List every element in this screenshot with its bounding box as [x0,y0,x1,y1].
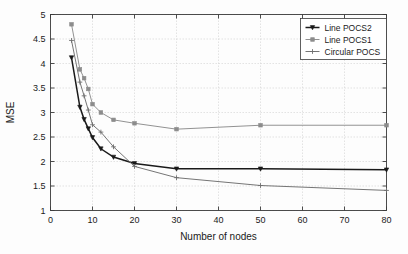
data-point-marker [311,38,315,42]
y-tick-label: 5 [40,10,45,20]
x-tick-label: 0 [48,215,53,225]
x-tick-label: 80 [381,215,391,225]
y-tick-label: 3.5 [33,83,46,93]
y-tick-label: 4.5 [33,34,46,44]
x-tick-label: 40 [213,215,223,225]
line-chart: 0102030405060708011.522.533.544.55Number… [0,0,408,254]
y-axis-title: MSE [5,101,16,123]
series-line [72,40,387,190]
data-point-marker [133,121,137,125]
data-point-marker [259,123,263,127]
y-tick-label: 1.5 [33,181,46,191]
x-tick-label: 50 [255,215,265,225]
legend-label-2: Line POCS1 [325,35,373,45]
x-tick-label: 10 [87,215,97,225]
legend-label-3: Circular POCS [325,47,381,57]
data-point-marker [87,87,91,91]
x-axis-title: Number of nodes [180,231,257,242]
x-tick-label: 70 [339,215,349,225]
data-point-marker [175,127,179,131]
y-tick-label: 2 [40,157,45,167]
series-circular-pocs [72,40,387,190]
series-line-pocs2 [72,58,387,170]
y-tick-label: 4 [40,59,45,69]
data-point-marker [70,23,74,27]
data-point-marker [91,102,95,106]
data-point-marker [82,76,86,80]
data-point-marker [112,118,116,122]
series-line [72,58,387,170]
data-point-marker [78,68,82,72]
y-tick-label: 2.5 [33,132,46,142]
data-point-marker [385,123,389,127]
x-tick-label: 20 [129,215,139,225]
y-tick-label: 1 [40,206,45,216]
legend-label-1: Line POCS2 [325,23,373,33]
data-point-marker [78,105,82,109]
y-tick-label: 3 [40,108,45,118]
x-tick-label: 30 [171,215,181,225]
data-point-marker [99,111,103,115]
chart-figure: 0102030405060708011.522.533.544.55Number… [0,0,408,254]
x-tick-label: 60 [297,215,307,225]
data-point-marker [69,56,73,60]
